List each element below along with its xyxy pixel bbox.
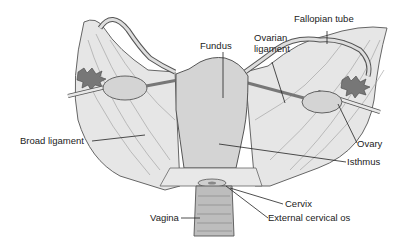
label-ovary: Ovary bbox=[357, 139, 382, 149]
label-fundus: Fundus bbox=[200, 41, 232, 51]
label-fallopian-tube: Fallopian tube bbox=[294, 14, 354, 24]
label-ovarian-ligament-line2: ligament bbox=[254, 44, 290, 54]
broad-ligament-left bbox=[75, 20, 180, 190]
label-isthmus: Isthmus bbox=[347, 157, 380, 167]
label-broad-ligament: Broad ligament bbox=[20, 136, 84, 146]
ovary-left bbox=[103, 76, 147, 100]
label-cervix: Cervix bbox=[285, 199, 312, 209]
label-ovarian-ligament-line1: Ovarian bbox=[254, 33, 287, 43]
label-external-cervical-os: External cervical os bbox=[268, 213, 350, 223]
anatomy-illustration bbox=[0, 0, 405, 241]
ovary-right bbox=[302, 91, 342, 113]
uterus-anatomy-diagram: Fundus Ovarian ligament Fallopian tube B… bbox=[0, 0, 405, 241]
external-os bbox=[208, 182, 216, 185]
label-vagina: Vagina bbox=[150, 213, 179, 223]
vagina bbox=[194, 186, 234, 236]
uterus-body bbox=[176, 58, 248, 169]
